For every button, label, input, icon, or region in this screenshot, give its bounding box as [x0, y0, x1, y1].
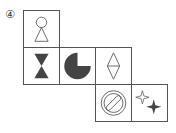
option-label: ④	[5, 9, 15, 20]
prohibition-sign-icon	[96, 85, 131, 121]
face-stars	[131, 84, 168, 122]
face-circle-triangle	[23, 10, 60, 48]
face-prohibition	[95, 84, 132, 122]
hourglass-icon	[24, 48, 59, 84]
circle-over-triangle-icon	[24, 11, 59, 47]
four-point-stars-icon	[132, 85, 167, 121]
split-diamond-icon	[96, 48, 131, 84]
face-pac-circle	[59, 47, 96, 85]
three-quarter-circle-icon	[60, 48, 95, 84]
face-diamond	[95, 47, 132, 85]
face-hourglass	[23, 47, 60, 85]
